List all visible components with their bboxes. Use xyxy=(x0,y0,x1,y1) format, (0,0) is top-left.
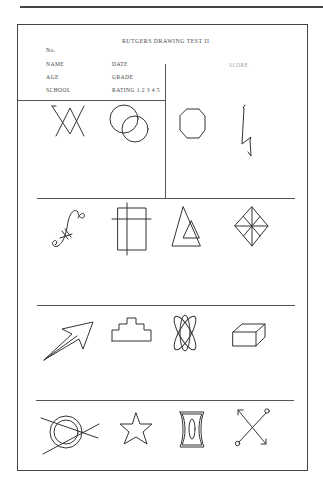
rectangle-with-crossing-lines-figure xyxy=(112,203,152,257)
nested-triangles-figure xyxy=(171,206,201,248)
atom-ellipses-figure xyxy=(168,313,202,353)
test-title: RUTGERS DRAWING TEST II xyxy=(122,38,209,44)
octagon-figure xyxy=(179,108,207,140)
diamond-with-spokes-figure xyxy=(234,206,270,248)
age-field-label: AGE xyxy=(46,74,59,80)
header-vertical-divider xyxy=(165,64,166,198)
row-divider-2 xyxy=(37,305,295,306)
header-left-divider xyxy=(18,100,166,101)
interlaced-v-triangles-figure xyxy=(52,104,88,140)
crossed-arrows-with-circles-figure xyxy=(234,407,270,447)
top-rule xyxy=(20,6,323,8)
s-curve-with-crossbars-figure xyxy=(50,208,88,250)
name-field-label: NAME xyxy=(46,61,64,67)
school-field-label: SCHOOL xyxy=(46,87,71,93)
rating-field-label: RATING 1 2 3 4 5 xyxy=(112,87,160,93)
overlapping-circles-figure xyxy=(108,103,152,145)
concave-frame-with-oval-figure xyxy=(179,411,205,449)
five-point-star-figure xyxy=(119,412,153,446)
zigzag-line-figure xyxy=(241,104,255,158)
outlined-arrow-figure xyxy=(42,316,96,362)
rectangular-box-figure xyxy=(232,322,266,348)
double-circle-with-crossing-lines-figure xyxy=(40,412,100,456)
row-divider-3 xyxy=(36,400,294,401)
stepped-pyramid-figure xyxy=(111,317,153,343)
row-divider-1 xyxy=(37,198,295,199)
number-label: No. xyxy=(46,47,55,53)
grade-field-label: GRADE xyxy=(112,74,133,80)
score-label: SCORE xyxy=(229,62,248,68)
date-field-label: DATE xyxy=(112,61,128,67)
